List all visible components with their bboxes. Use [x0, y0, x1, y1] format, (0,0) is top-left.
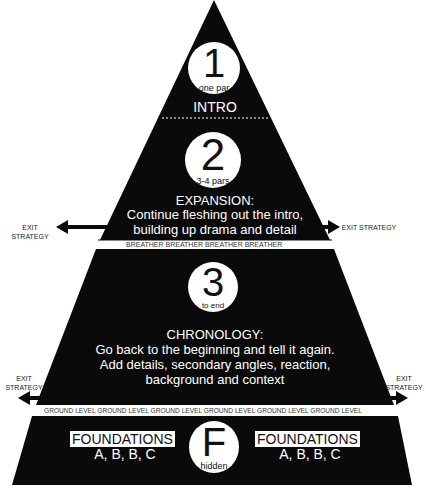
foundations-left-label: FOUNDATIONS [70, 431, 175, 447]
exit-arrow-lower-left-head [18, 391, 30, 405]
exit-strategy-lower-left-line2: STRATEGY [4, 383, 44, 392]
section-2-sub: 3-4 pars [185, 176, 241, 186]
ground-level-label: GROUND LEVEL GROUND LEVEL GROUND LEVEL G… [44, 407, 362, 414]
section-3-circle: 3 to end [188, 262, 238, 312]
exit-arrow-lower-right-head [396, 391, 408, 405]
section-3-body-3: background and context [60, 372, 370, 387]
section-1-title: INTRO [150, 99, 280, 115]
exit-strategy-lower-right-line1: EXIT [384, 374, 424, 383]
section-3-title: CHRONOLOGY: [100, 327, 330, 342]
section-2-circle: 2 3-4 pars [185, 132, 241, 188]
section-1-sub: one par [188, 83, 240, 93]
section-3-sub: to end [188, 301, 238, 311]
exit-arrow-upper-left-head [56, 220, 68, 234]
section-2-body-2: building up drama and detail [100, 222, 330, 237]
section-3-number: 3 [188, 263, 238, 301]
exit-strategy-upper-left: EXIT STRATEGY [4, 223, 56, 241]
section-3-body-2: Add details, secondary angles, reaction, [60, 357, 370, 372]
section-1-circle: 1 one par [188, 42, 240, 94]
section-2-title: EXPANSION: [110, 193, 320, 208]
section-2-number: 2 [185, 134, 241, 176]
section-f-sub: hidden [189, 461, 239, 471]
section-2-body-1: Continue fleshing out the intro, [100, 207, 330, 222]
foundations-right-sub: A, B, B, C [255, 446, 365, 462]
foundations-left-sub: A, B, B, C [70, 446, 180, 462]
section-1-number: 1 [188, 43, 240, 83]
section-3-body-1: Go back to the beginning and tell it aga… [60, 342, 370, 357]
foundations-right-label: FOUNDATIONS [255, 431, 360, 447]
section-f-circle: F hidden [189, 421, 239, 473]
section-f-letter: F [189, 423, 239, 461]
breather-label: BREATHER BREATHER BREATHER BREATHER [126, 241, 282, 248]
exit-strategy-upper-right: EXIT STRATEGY [340, 223, 398, 232]
exit-strategy-lower-right-line2: STRATEGY [384, 383, 424, 392]
exit-strategy-lower-left-line1: EXIT [4, 374, 44, 383]
